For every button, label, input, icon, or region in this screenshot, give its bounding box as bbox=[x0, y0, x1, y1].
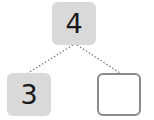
part-box-right-empty[interactable] bbox=[97, 73, 141, 116]
whole-value: 4 bbox=[65, 8, 82, 39]
whole-box: 4 bbox=[52, 2, 96, 45]
part-box-left: 3 bbox=[7, 73, 51, 116]
connector-whole-to-right bbox=[77, 45, 120, 73]
part-left-value: 3 bbox=[20, 79, 37, 110]
connector-whole-to-left bbox=[28, 45, 73, 73]
